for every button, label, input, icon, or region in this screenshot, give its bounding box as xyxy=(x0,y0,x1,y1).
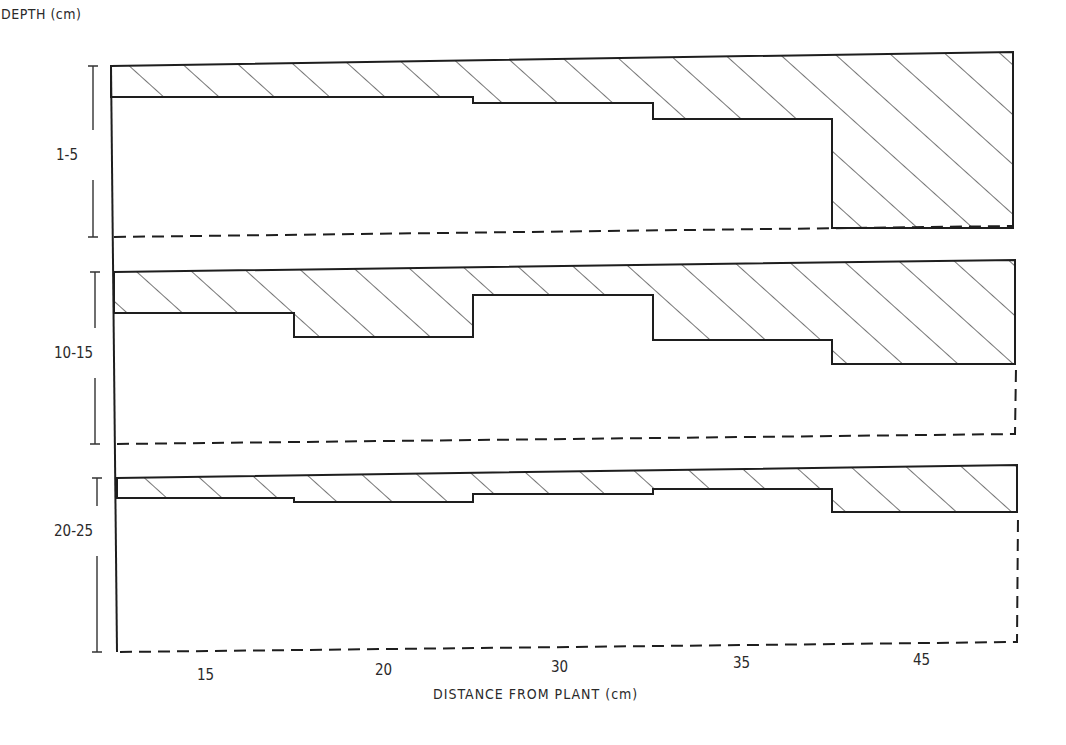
depth-bracket xyxy=(92,478,102,652)
depth-panels: 1-510-1520-25 xyxy=(54,52,1018,652)
x-tick-label: 30 xyxy=(551,658,568,676)
depth-row-label: 10-15 xyxy=(54,344,93,362)
depth-row-label: 20-25 xyxy=(54,522,93,540)
left-axis-line xyxy=(111,66,117,652)
depth-distance-chart: DEPTH (cm) 1-510-1520-25 15 20 30 35 45 … xyxy=(0,0,1066,745)
x-tick-label: 35 xyxy=(733,654,750,672)
depth-panel-10-15: 10-15 xyxy=(54,260,1016,444)
x-tick-label: 45 xyxy=(913,651,930,669)
x-axis-title: DISTANCE FROM PLANT (cm) xyxy=(433,686,638,702)
hatched-band xyxy=(111,52,1013,228)
x-tick-label: 20 xyxy=(375,661,392,679)
depth-panel-20-25: 20-25 xyxy=(54,465,1018,652)
dashed-baseline xyxy=(114,226,1013,237)
depth-row-label: 1-5 xyxy=(56,146,78,164)
dashed-baseline xyxy=(117,368,1016,444)
depth-panel-1-5: 1-5 xyxy=(56,52,1013,237)
dashed-baseline xyxy=(120,516,1018,652)
x-tick-label: 15 xyxy=(197,666,214,684)
x-tick-labels: 15 20 30 35 45 xyxy=(197,651,930,684)
y-axis-title: DEPTH (cm) xyxy=(1,6,81,22)
depth-bracket xyxy=(88,66,98,237)
